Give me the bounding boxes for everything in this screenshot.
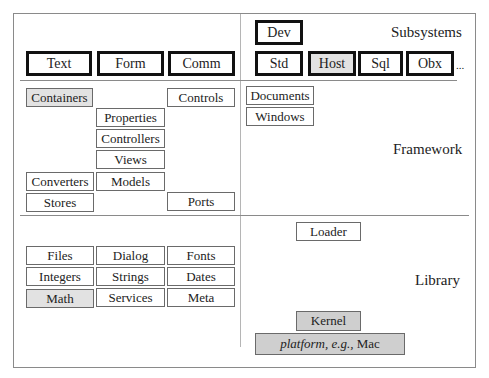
module-properties: Properties [96, 108, 165, 127]
module-containers: Containers [26, 88, 93, 107]
module-converters: Converters [26, 172, 94, 191]
module-std: Std [255, 51, 303, 76]
module-views: Views [96, 150, 165, 169]
divider-framework-library [20, 215, 469, 216]
platform-box: platform, e.g., Mac [255, 333, 405, 355]
module-math: Math [26, 289, 94, 308]
module-dialog: Dialog [96, 246, 165, 265]
module-fonts: Fonts [167, 246, 235, 265]
module-host: Host [308, 51, 356, 76]
module-meta: Meta [167, 288, 235, 307]
module-services: Services [96, 288, 165, 307]
divider-subsystems-framework [20, 80, 457, 81]
layer-label-subsystems: Subsystems [391, 24, 462, 41]
module-stores: Stores [26, 193, 94, 212]
module-dev: Dev [255, 20, 303, 45]
module-comm: Comm [168, 51, 235, 76]
layer-label-library: Library [415, 272, 460, 289]
module-files: Files [26, 246, 94, 265]
module-text: Text [26, 51, 92, 76]
module-dates: Dates [167, 267, 235, 286]
platform-prefix: platform, e.g., [280, 336, 353, 352]
platform-name: Mac [357, 336, 380, 352]
layer-label-framework: Framework [393, 141, 462, 158]
module-controls: Controls [167, 88, 235, 107]
more-ellipsis: ... [456, 59, 464, 71]
module-windows: Windows [246, 107, 314, 126]
module-ports: Ports [167, 192, 235, 211]
module-obx: Obx [406, 51, 454, 76]
module-kernel: Kernel [296, 311, 361, 331]
module-strings: Strings [96, 267, 165, 286]
vertical-divider [240, 14, 241, 347]
module-loader: Loader [296, 222, 361, 241]
module-integers: Integers [26, 267, 94, 286]
module-controllers: Controllers [96, 129, 165, 148]
module-form: Form [97, 51, 164, 76]
module-documents: Documents [246, 86, 314, 105]
module-sql: Sql [358, 51, 403, 76]
module-models: Models [96, 172, 165, 191]
